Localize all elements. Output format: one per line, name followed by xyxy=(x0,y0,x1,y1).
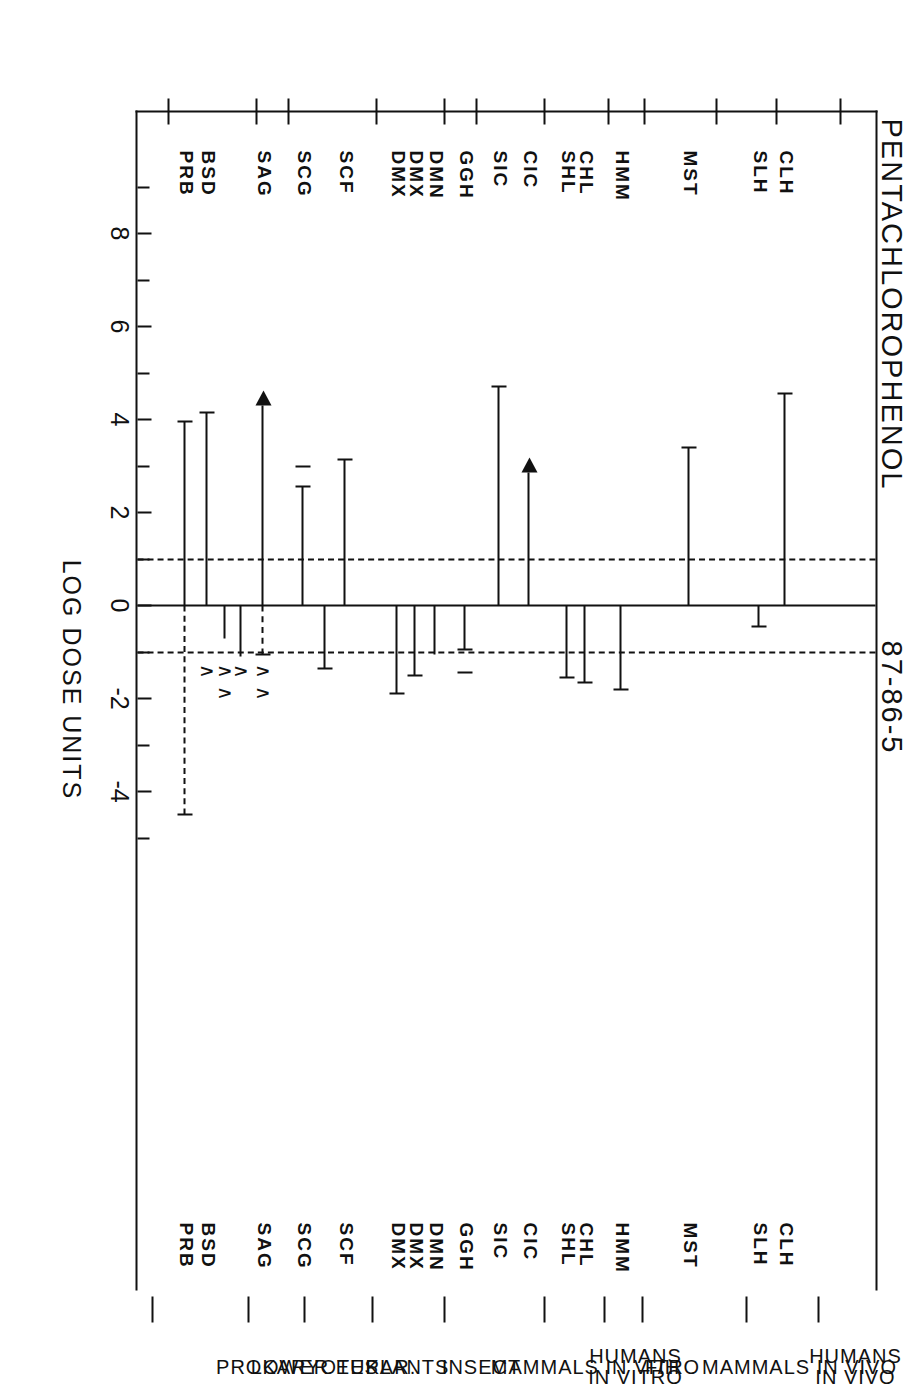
caret-marker: ∧ xyxy=(254,663,272,678)
dashed-extension xyxy=(261,605,263,654)
interval-cap xyxy=(751,625,766,627)
study-code: SCF xyxy=(335,150,355,194)
category-tick xyxy=(839,98,841,124)
study-code-right: SLH xyxy=(749,1222,769,1266)
interval-bar xyxy=(583,605,585,682)
category-label: F/H xyxy=(643,1342,681,1388)
study-code: DMX xyxy=(387,150,407,198)
chart-title-chemical: PENTACHLOROPHENOL xyxy=(874,118,907,490)
axis-minor-tick xyxy=(137,837,149,839)
axis-tick xyxy=(137,511,151,513)
interval-bar xyxy=(183,421,185,605)
study-code-right: DMX xyxy=(405,1222,425,1270)
interval-bar xyxy=(239,605,241,656)
study-code: DMN xyxy=(425,150,445,199)
category-tick xyxy=(715,98,717,124)
study-code-right: SCF xyxy=(335,1222,355,1266)
axis-tick xyxy=(137,325,151,327)
dashed-extension-cap xyxy=(177,813,192,815)
axis-title: LOG DOSE UNITS xyxy=(56,0,85,1359)
study-code: SIC xyxy=(489,150,509,188)
caret-marker: ∧ xyxy=(232,663,250,678)
axis-minor-tick xyxy=(137,558,149,560)
category-label: LOWER EUKAR. xyxy=(305,1342,361,1388)
axis-tick xyxy=(137,232,151,234)
interval-cap xyxy=(491,385,506,387)
axis-minor-tick xyxy=(137,186,149,188)
caret-marker: ∧ xyxy=(254,685,272,700)
study-code-right: CLH xyxy=(775,1222,795,1267)
study-code: SCG xyxy=(293,150,313,197)
interval-bar xyxy=(783,393,785,605)
chart-title-cas: 87-86-5 xyxy=(874,640,907,754)
category-divider xyxy=(151,1296,153,1322)
category-tick xyxy=(607,98,609,124)
open-ended-arrow xyxy=(521,457,537,472)
axis-minor-tick xyxy=(137,279,149,281)
interval-cap xyxy=(559,676,574,678)
interval-cap xyxy=(389,692,404,694)
study-code: BSD xyxy=(197,150,217,196)
interval-cap xyxy=(317,667,332,669)
axis-tick xyxy=(137,604,151,606)
interval-bar xyxy=(757,605,759,626)
axis-tick xyxy=(137,418,151,420)
axis-minor-tick xyxy=(137,465,149,467)
interval-cap xyxy=(407,674,422,676)
axis-tick-label: 4 xyxy=(106,412,131,426)
study-code-right: MST xyxy=(679,1222,699,1268)
interval-cap xyxy=(337,458,352,460)
caret-marker: ∧ xyxy=(216,685,234,700)
caret-marker: ∧ xyxy=(198,663,216,678)
interval-cap xyxy=(177,420,192,422)
category-tick xyxy=(543,98,545,124)
dashed-extension-cap xyxy=(255,653,270,655)
axis-tick-label: 2 xyxy=(106,505,131,519)
interval-bar xyxy=(261,405,263,605)
category-tick xyxy=(255,98,257,124)
category-label: HUMANS IN VIVO xyxy=(819,1342,891,1388)
interval-bar xyxy=(497,386,499,605)
study-code-right: SAG xyxy=(253,1222,273,1269)
study-code-right: BSD xyxy=(197,1222,217,1268)
category-tick xyxy=(643,98,645,124)
axis-tick xyxy=(137,790,151,792)
category-tick xyxy=(775,98,777,124)
study-code-right: SIC xyxy=(489,1222,509,1260)
study-code-right: DMX xyxy=(387,1222,407,1270)
interval-bar xyxy=(619,605,621,689)
category-divider xyxy=(817,1296,819,1322)
interval-bar xyxy=(301,486,303,605)
open-ended-arrow xyxy=(255,390,271,405)
zero-reference-line xyxy=(137,604,875,606)
axis-tick xyxy=(137,697,151,699)
study-code-right: HMM xyxy=(611,1222,631,1273)
study-code-right: DMN xyxy=(425,1222,445,1271)
category-label: PLANTS xyxy=(373,1342,441,1388)
detached-cap xyxy=(457,671,472,673)
axis-tick-label: -2 xyxy=(106,687,131,709)
axis-minor-tick xyxy=(137,651,149,653)
study-code-right: GGH xyxy=(455,1222,475,1271)
axis-tick-label: 0 xyxy=(106,598,131,612)
interval-cap xyxy=(777,392,792,394)
study-code: CLH xyxy=(775,150,795,195)
study-code-right: SHL xyxy=(557,1222,577,1266)
category-tick xyxy=(287,98,289,124)
study-code-right: PRB xyxy=(175,1222,195,1268)
category-tick xyxy=(475,98,477,124)
study-code-right: SCG xyxy=(293,1222,313,1269)
study-code: CHL xyxy=(575,150,595,195)
category-tick xyxy=(375,98,377,124)
axis-tick-label: 6 xyxy=(106,319,131,333)
study-code: DMX xyxy=(405,150,425,198)
interval-bar xyxy=(343,459,345,605)
study-code: MST xyxy=(679,150,699,196)
interval-bar xyxy=(565,605,567,677)
interval-cap xyxy=(681,446,696,448)
study-code: SLH xyxy=(749,150,769,194)
study-code: SHL xyxy=(557,150,577,194)
interval-bar xyxy=(223,605,225,638)
